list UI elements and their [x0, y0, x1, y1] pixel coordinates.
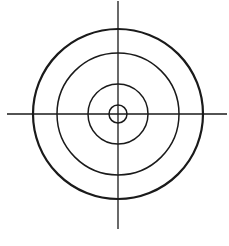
crosshair-target-diagram — [0, 0, 229, 246]
